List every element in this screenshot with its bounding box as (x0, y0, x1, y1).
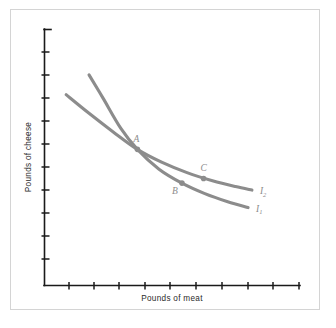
chart-canvas: A B C I2 I1 Pounds of meat Pounds of che… (0, 0, 336, 328)
curve-label-i2-subscript: 2 (263, 191, 267, 198)
point-dot-a (135, 147, 141, 153)
indifference-curve-i1 (89, 75, 248, 208)
curves-group (66, 75, 252, 208)
curve-labels: I2 I1 (255, 186, 267, 215)
curve-label-i2: I2 (259, 186, 267, 198)
y-axis-title: Pounds of cheese (24, 122, 33, 192)
y-axis-ticks (42, 52, 50, 259)
point-label-a: A (132, 134, 139, 144)
axes-group (44, 29, 300, 286)
curve-label-i1-subscript: 1 (259, 208, 262, 215)
point-dot-b (179, 180, 185, 186)
point-label-c: C (201, 163, 208, 173)
x-axis-title: Pounds of meat (141, 294, 203, 303)
point-label-b: B (172, 186, 178, 196)
figure-container: A B C I2 I1 Pounds of meat Pounds of che… (0, 0, 336, 328)
curve-label-i1: I1 (255, 204, 262, 216)
point-dot-c (201, 176, 207, 182)
indifference-curve-i2 (66, 95, 252, 190)
